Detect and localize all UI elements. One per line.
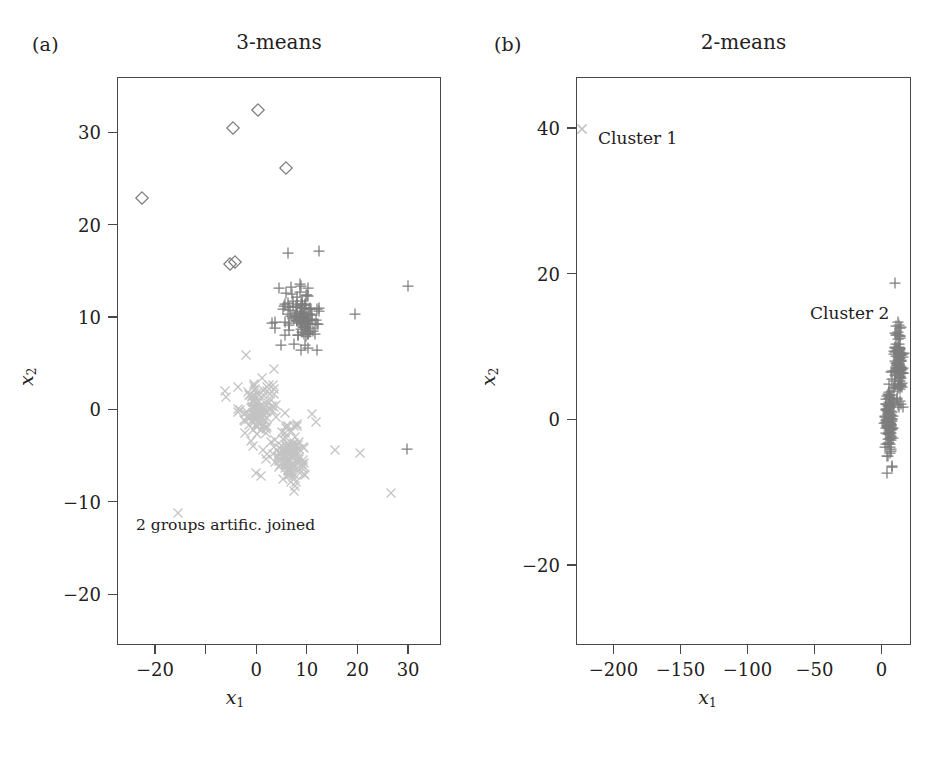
panel-a-yaxis-title-sub: 2 [25, 368, 39, 376]
figure-kmeans-clustering: (a) 3-means −2001020303020100−10−20 x1 x… [0, 0, 945, 769]
panel-a-yaxis-title-text: x [15, 375, 37, 386]
data-point-diamond [228, 254, 243, 269]
data-point-plus [893, 361, 906, 374]
panel-a-title: 3-means [117, 30, 441, 54]
y-tick [108, 224, 117, 225]
y-tick-label: 0 [9, 399, 101, 420]
x-tick-label: 0 [250, 659, 261, 680]
data-point-diamond [134, 191, 149, 206]
data-point-cross [385, 486, 398, 499]
x-tick [814, 645, 815, 654]
data-point-cross [283, 465, 296, 478]
panel-a-letter: (a) [32, 33, 59, 55]
x-tick [154, 645, 155, 654]
y-tick-label: −20 [468, 554, 560, 575]
y-tick [567, 564, 576, 565]
x-tick [881, 645, 882, 654]
y-tick-label: 30 [9, 122, 101, 143]
data-point-cross [289, 479, 302, 492]
data-point-cross [266, 447, 279, 460]
y-tick [108, 132, 117, 133]
data-point-cross [309, 415, 322, 428]
panel-a: (a) 3-means −2001020303020100−10−20 x1 x… [0, 0, 470, 769]
y-tick-label: 10 [9, 307, 101, 328]
data-point-diamond [251, 103, 266, 118]
data-point-plus [348, 307, 361, 320]
x-tick [256, 645, 257, 654]
y-tick [108, 409, 117, 410]
data-point-plus [312, 244, 325, 257]
y-tick [567, 127, 576, 128]
y-tick [567, 419, 576, 420]
y-tick-label: −10 [9, 491, 101, 512]
data-point-plus [881, 450, 894, 463]
x-tick-label: −150 [656, 659, 705, 680]
panel-a-yaxis-title: x2 [15, 368, 39, 386]
panel-b-yaxis-title: x2 [477, 368, 501, 386]
panel-b-yaxis-title-sub: 2 [487, 368, 501, 376]
panel-b-legend-cluster-1-label: Cluster 1 [598, 128, 677, 148]
panel-a-annotation-joined-groups: 2 groups artific. joined [136, 516, 315, 534]
panel-b-plot-area [577, 78, 910, 644]
panel-b-legend-cluster-2-label: Cluster 2 [810, 303, 889, 323]
x-tick-label: 0 [876, 659, 887, 680]
data-point-cross [353, 446, 366, 459]
y-tick-label: 0 [468, 409, 560, 430]
x-tick [747, 645, 748, 654]
x-tick [306, 645, 307, 654]
data-point-plus [883, 392, 896, 405]
y-tick-label: 20 [9, 214, 101, 235]
panel-a-plot-frame [117, 77, 441, 645]
x-tick-label: 30 [397, 659, 420, 680]
panel-b-xaxis-title: x1 [470, 686, 945, 710]
data-point-diamond [225, 120, 240, 135]
data-point-plus [281, 247, 294, 260]
data-point-cross [289, 440, 302, 453]
panel-b-xaxis-title-text: x [698, 686, 709, 708]
data-point-plus [274, 339, 287, 352]
x-tick-label: −50 [796, 659, 834, 680]
data-point-cross [239, 349, 252, 362]
data-point-plus [883, 424, 896, 437]
data-point-plus [287, 311, 300, 324]
data-point-cross [329, 444, 342, 457]
panel-b-title: 2-means [576, 30, 911, 54]
x-tick-label: 20 [346, 659, 369, 680]
data-point-cross [249, 467, 262, 480]
y-tick-label: −20 [9, 584, 101, 605]
x-tick [357, 645, 358, 654]
data-point-plus [895, 349, 908, 362]
data-point-cross [231, 406, 244, 419]
y-tick [108, 316, 117, 317]
x-tick [680, 645, 681, 654]
panel-b-letter: (b) [494, 33, 522, 55]
y-tick-label: 40 [468, 117, 560, 138]
x-tick-label: −20 [136, 659, 174, 680]
data-point-plus [295, 280, 308, 293]
panel-b-plot-frame [576, 77, 911, 645]
panel-b: (b) 2-means −200−150−100−50040200−20 x1 … [470, 0, 945, 769]
x-tick [205, 645, 206, 654]
data-point-plus [402, 279, 415, 292]
panel-b-xaxis-title-sub: 1 [709, 696, 717, 710]
data-point-cross [247, 416, 260, 429]
data-point-plus [400, 443, 413, 456]
data-point-diamond [278, 160, 293, 175]
data-point-cross [263, 378, 276, 391]
x-tick-label: 10 [295, 659, 318, 680]
panel-a-plot-area [118, 78, 440, 644]
panel-a-xaxis-title-sub: 1 [237, 696, 245, 710]
data-point-plus [302, 342, 315, 355]
data-point-plus [890, 328, 903, 341]
y-tick-label: 20 [468, 263, 560, 284]
x-tick-label: −200 [589, 659, 638, 680]
data-point-cross [249, 397, 262, 410]
legend-marker-cluster-1 [575, 122, 588, 135]
panel-a-xaxis-title-text: x [226, 686, 237, 708]
x-tick [407, 645, 408, 654]
y-tick [108, 594, 117, 595]
panel-b-yaxis-title-text: x [477, 375, 499, 386]
data-point-plus [298, 328, 311, 341]
x-tick [613, 645, 614, 654]
panel-a-xaxis-title: x1 [0, 686, 470, 710]
